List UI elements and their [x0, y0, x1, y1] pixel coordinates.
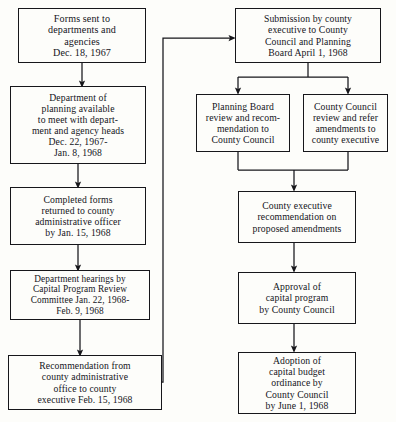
node-department-hearings: Department hearings by Capital Program R…	[10, 270, 150, 320]
node-recommendation-county-admin: Recommendation from county administrativ…	[8, 355, 162, 410]
node-submission-county-executive: Submission by county executive to County…	[235, 8, 381, 63]
node-planning-board-review: Planning Board review and recom- mendati…	[196, 94, 290, 152]
node-planning-available: Department of planning available to meet…	[10, 86, 146, 164]
node-label: Forms sent to departments and agencies D…	[46, 13, 118, 59]
node-label: Planning Board review and recom- mendati…	[204, 101, 282, 145]
node-label: Adoption of capital budget ordinance by …	[263, 355, 330, 410]
node-label: Completed forms returned to county admin…	[33, 194, 123, 238]
node-county-executive-recommendation: County executive recommendation on propo…	[238, 191, 356, 243]
node-completed-forms: Completed forms returned to county admin…	[10, 187, 146, 245]
node-label: Submission by county executive to County…	[262, 13, 354, 57]
node-label: County Council review and refer amendmen…	[310, 101, 382, 145]
node-county-council-review: County Council review and refer amendmen…	[303, 94, 388, 152]
node-label: County executive recommendation on propo…	[251, 200, 344, 233]
node-label: Department hearings by Capital Program R…	[29, 274, 132, 316]
flowchart-canvas: Forms sent to departments and agencies D…	[0, 0, 396, 422]
edge-n5-n6	[162, 38, 232, 382]
node-label: Recommendation from county administrativ…	[35, 360, 134, 404]
node-label: Department of planning available to meet…	[30, 92, 126, 158]
node-label: Approval of capital program by County Co…	[257, 281, 336, 314]
node-approval-capital-program: Approval of capital program by County Co…	[238, 272, 356, 324]
node-forms-sent: Forms sent to departments and agencies D…	[18, 8, 146, 63]
node-adoption-capital-budget: Adoption of capital budget ordinance by …	[238, 352, 356, 414]
